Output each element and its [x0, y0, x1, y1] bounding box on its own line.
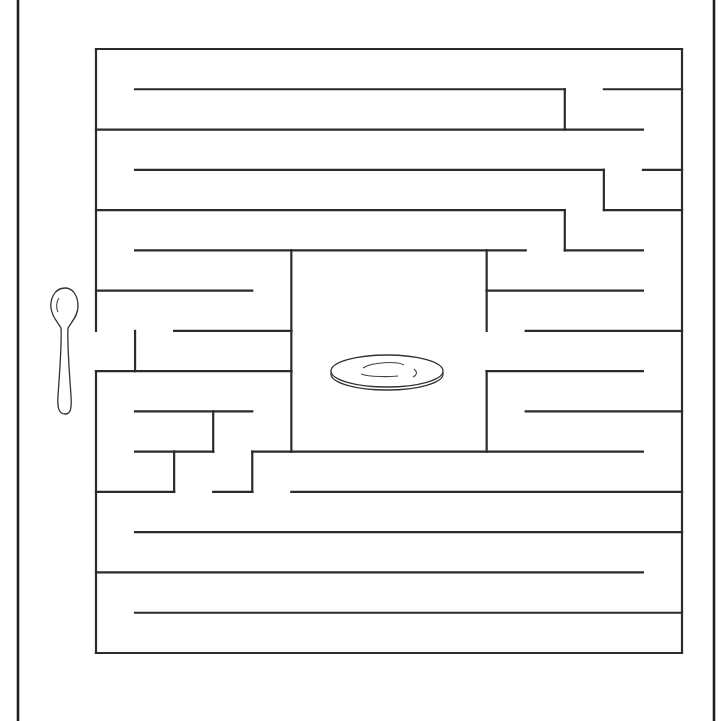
- spoon-icon[interactable]: [51, 288, 78, 414]
- maze-walls: [96, 49, 682, 653]
- maze-canvas: [0, 0, 721, 721]
- plate-icon[interactable]: [331, 355, 443, 390]
